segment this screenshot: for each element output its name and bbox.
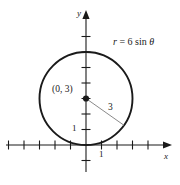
x-axis-tick-label-1: 1: [99, 150, 104, 159]
graph-canvas: [0, 0, 180, 185]
y-axis-tick-label-1: 1: [72, 124, 77, 133]
equation-function: sin: [135, 36, 147, 47]
y-axis-label: y: [77, 9, 81, 18]
x-axis-label: x: [164, 152, 168, 161]
equation-variable: θ: [149, 36, 154, 47]
radius-segment: [86, 99, 124, 126]
y-axis-arrowhead: [82, 10, 89, 19]
center-point-label: (0, 3): [52, 85, 73, 95]
polar-graph-figure: y x 1 1 (0, 3) 3 r = 6 sin θ: [0, 0, 180, 185]
center-point-marker: [83, 95, 89, 101]
equation-annotation: r = 6 sin θ: [113, 37, 154, 47]
x-axis-arrowhead: [163, 141, 172, 148]
radius-label: 3: [108, 103, 113, 113]
